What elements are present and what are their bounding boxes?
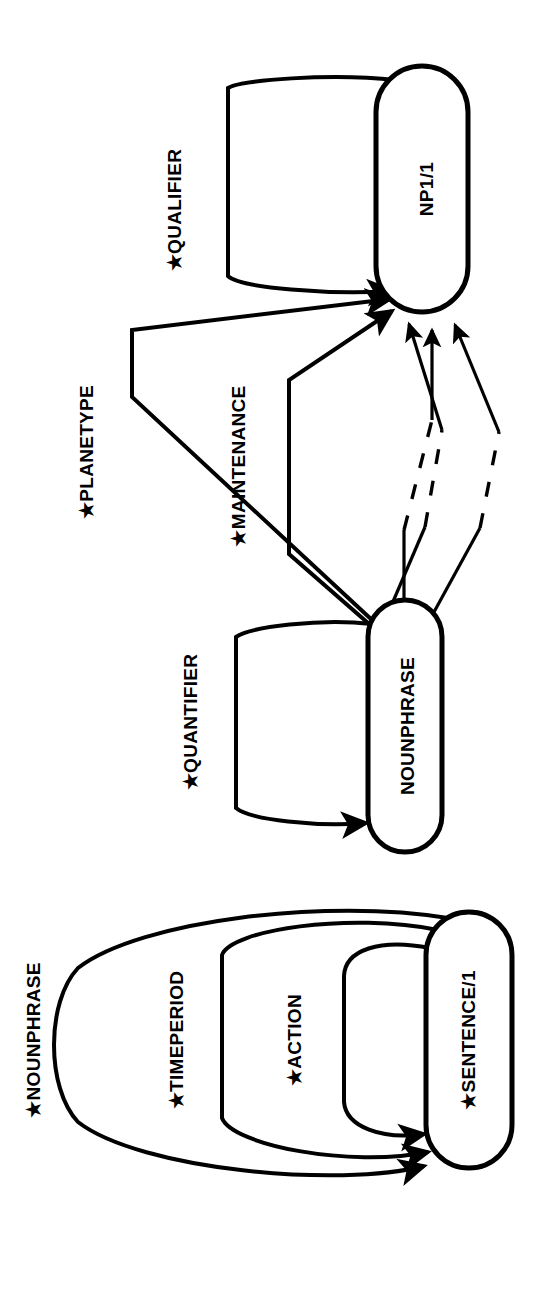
diagram-svg: NP1/1 NOUNPHRASE ★SENTENCE/1 ★QUALIFIER … [0, 0, 550, 1291]
label-planetype: ★PLANETYPE [76, 385, 97, 519]
diagram-canvas: NP1/1 NOUNPHRASE ★SENTENCE/1 ★QUALIFIER … [0, 0, 550, 1291]
label-timeperiod-fallback: ★TIMEPERIOD [166, 971, 187, 1110]
edge-elided-right [428, 325, 499, 623]
node-sentence-label: ★SENTENCE/1 [458, 970, 479, 1110]
edge-qualifier-self-loop [228, 77, 396, 292]
label-nounphrase-loop: ★NOUNPHRASE [23, 962, 44, 1117]
node-nounphrase[interactable]: NOUNPHRASE [368, 600, 442, 852]
label-maintenance: ★MAINTENANCE [228, 386, 249, 547]
edge-quantifier-self-loop [236, 622, 372, 824]
node-np1[interactable]: NP1/1 [376, 66, 468, 312]
edge-planetype [132, 299, 390, 620]
node-np1-label: NP1/1 [416, 162, 437, 216]
edge-maintenance [289, 311, 392, 630]
label-qualifier: ★QUALIFIER [164, 149, 185, 271]
node-nounphrase-label: NOUNPHRASE [397, 657, 418, 795]
edge-elided-center [404, 330, 432, 600]
label-action: ★ACTION [284, 994, 305, 1086]
edge-action-self-loop [344, 944, 430, 1135]
edge-timeperiod-self-loop [222, 923, 438, 1158]
node-sentence[interactable]: ★SENTENCE/1 [426, 912, 512, 1168]
label-quantifier: ★QUANTIFIER [180, 654, 201, 790]
